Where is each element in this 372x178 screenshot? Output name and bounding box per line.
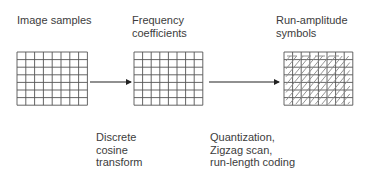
pipeline-diagram: [0, 0, 372, 178]
zigzag-scan-lines: [286, 38, 350, 105]
image-samples-grid: [17, 52, 87, 105]
frequency-coefficients-grid: [134, 52, 203, 105]
